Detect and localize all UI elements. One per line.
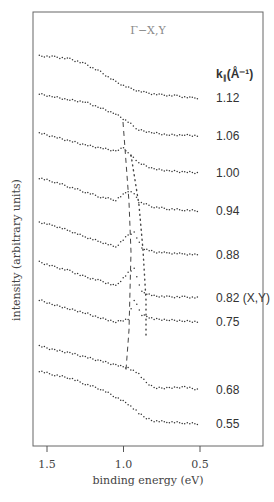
k-value-label: 1.12: [216, 91, 240, 105]
k-value-labels: 1.121.061.000.940.880.82 (X,Y)0.750.680.…: [216, 91, 270, 431]
k-value-label: 0.82 (X,Y): [216, 291, 270, 305]
x-tick-label: 1.5: [38, 458, 56, 471]
k-value-label: 0.88: [216, 248, 240, 262]
spectrum-curve: [39, 299, 199, 323]
dispersion-guides: [123, 122, 146, 370]
x-axis-ticks: 1.51.00.5: [38, 446, 209, 471]
spectrum-curve: [39, 371, 199, 426]
chart-title: Γ−X,Y: [130, 24, 166, 37]
spectrum-curve: [39, 345, 199, 391]
legend-title: k∥(Å⁻¹): [216, 66, 253, 82]
y-axis-label: intensity (arbitrary units): [10, 179, 23, 321]
dashed-guide-line: [123, 122, 131, 370]
x-tick-label: 1.0: [115, 458, 133, 471]
k-value-label: 1.06: [216, 129, 240, 143]
spectra-curves: [39, 55, 199, 426]
svg-text:k∥(Å⁻¹): k∥(Å⁻¹): [216, 66, 253, 82]
spectrum-curve: [39, 93, 199, 137]
dotted-guide-line: [131, 155, 146, 335]
spectrum-curve: [39, 132, 199, 174]
x-axis-label: binding energy (eV): [93, 474, 204, 487]
x-tick-label: 0.5: [191, 458, 209, 471]
k-value-label: 1.00: [216, 166, 240, 180]
chart: Γ−X,Y k∥(Å⁻¹) 1.121.061.000.940.880.82 (…: [0, 0, 274, 502]
spectrum-curve: [39, 221, 199, 255]
spectrum-curve: [39, 261, 199, 299]
spectrum-curve: [39, 178, 199, 213]
k-value-label: 0.75: [216, 315, 240, 329]
k-value-label: 0.55: [216, 417, 240, 431]
k-value-label: 0.94: [216, 204, 240, 218]
spectrum-curve: [39, 55, 199, 100]
k-value-label: 0.68: [216, 383, 240, 397]
